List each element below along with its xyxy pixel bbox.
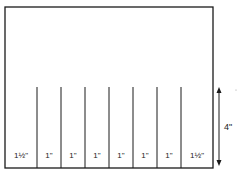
height-label: 4" [224, 122, 232, 132]
section-label: 1" [165, 151, 172, 160]
divider-lines [37, 87, 181, 168]
section-label: 1" [45, 151, 52, 160]
section-label: 1" [69, 151, 76, 160]
section-label: 1½" [14, 151, 28, 160]
divided-panel-diagram: 1½"1"1"1"1"1"1"1½" 4" [0, 0, 242, 179]
stray-dot [236, 90, 237, 91]
section-label: 1½" [190, 151, 204, 160]
section-label: 1" [141, 151, 148, 160]
section-label: 1" [93, 151, 100, 160]
arrow-up-icon [217, 87, 222, 93]
height-dimension: 4" [217, 87, 233, 166]
arrow-down-icon [217, 160, 222, 166]
section-label: 1" [117, 151, 124, 160]
